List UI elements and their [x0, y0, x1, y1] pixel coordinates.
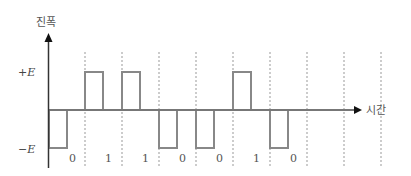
bit-label: 1: [253, 152, 260, 165]
bit-label: 0: [179, 152, 186, 165]
negative-level-label: −E: [18, 143, 35, 156]
positive-level-label: +E: [18, 66, 35, 79]
bit-label: 0: [290, 152, 297, 165]
bit-labels: 0110010: [69, 152, 297, 165]
signal-diagram: 진폭 시간 +E −E 0110010: [0, 0, 411, 176]
amplitude-axis-label: 진폭: [36, 16, 56, 29]
amplitude-axis-arrowhead: [45, 33, 53, 42]
bit-label: 1: [142, 152, 149, 165]
time-axis-label: 시간: [366, 104, 386, 117]
bit-label: 1: [105, 152, 112, 165]
bit-label: 0: [216, 152, 223, 165]
bit-label: 0: [69, 152, 76, 165]
time-axis-arrowhead: [354, 106, 362, 114]
